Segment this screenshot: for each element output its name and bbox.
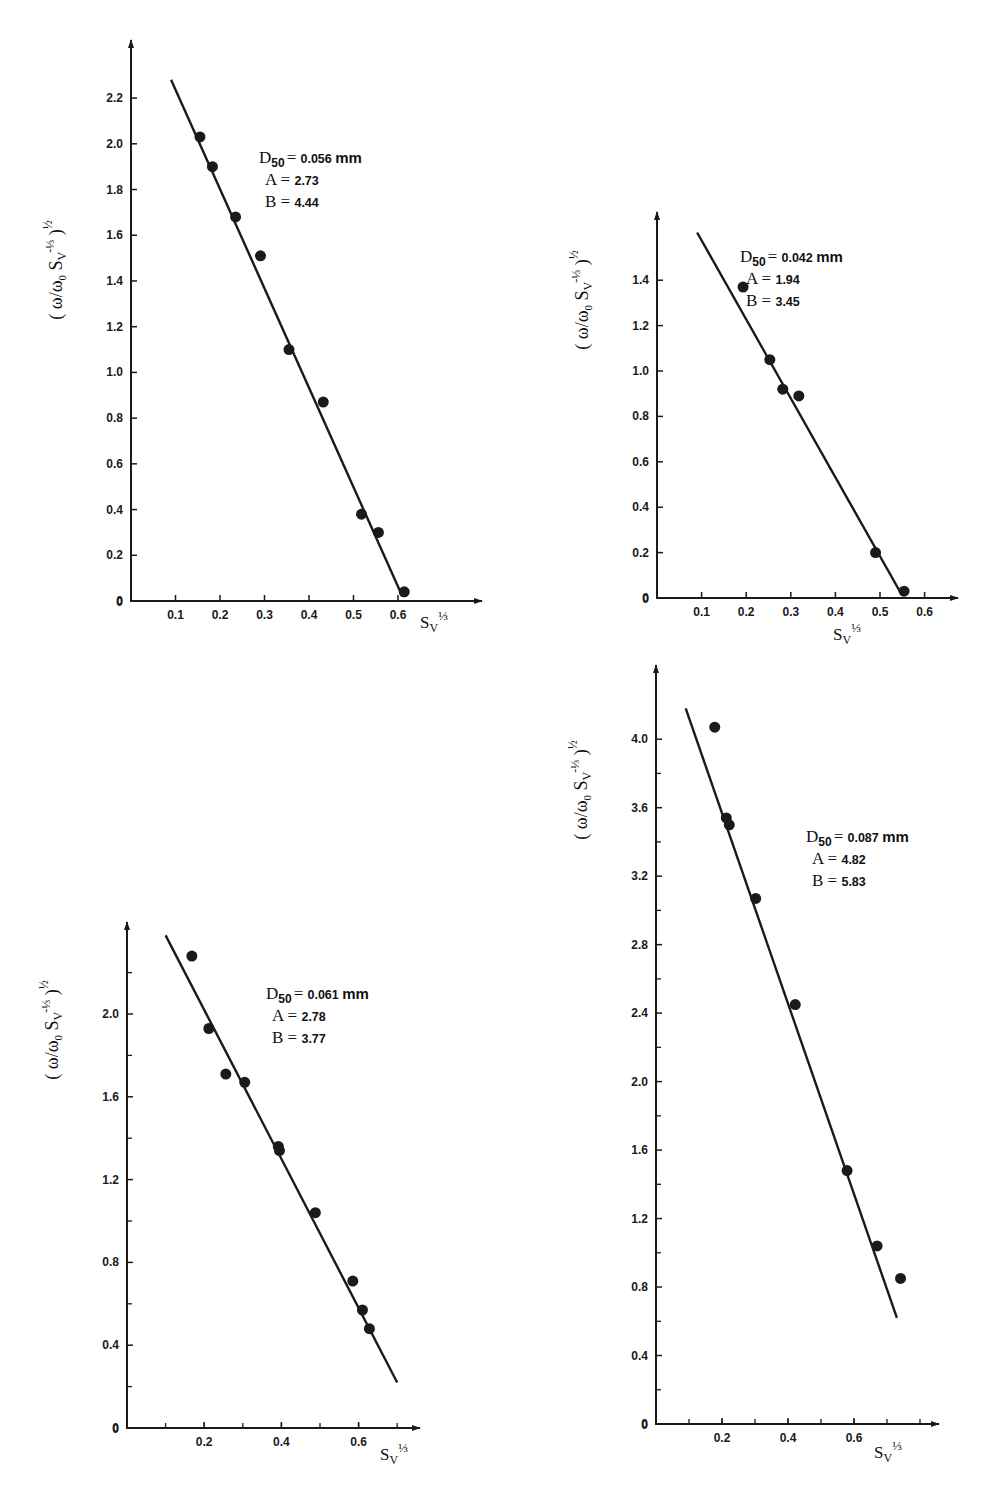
y-tick-label: 1.2: [106, 320, 123, 334]
y-tick-label: 2.0: [631, 1075, 648, 1089]
figure-canvas: 00.20.40.60.81.01.21.41.61.82.02.20.10.2…: [0, 0, 991, 1494]
b-value: B = 3.77: [272, 1028, 326, 1047]
data-point: [364, 1323, 375, 1334]
x-axis-label: SV⅓: [874, 1438, 902, 1465]
d50-label: D50= 0.056 mm: [259, 148, 362, 170]
d50-label: D50= 0.042 mm: [740, 247, 843, 269]
y-tick-label: 2.2: [106, 91, 123, 105]
x-tick-label: 0.4: [273, 1435, 290, 1449]
data-point: [194, 131, 205, 142]
y-tick-label: 1.2: [632, 319, 649, 333]
b-value: B = 4.44: [265, 192, 319, 211]
y-tick-label: 2.0: [102, 1007, 119, 1021]
x-axis-label: SV⅓: [833, 620, 861, 647]
y-tick-label: 0.4: [631, 1349, 648, 1363]
data-point: [764, 354, 775, 365]
data-point: [186, 951, 197, 962]
data-point: [895, 1273, 906, 1284]
x-tick-label: 0.6: [916, 605, 933, 619]
x-tick-label: 0.3: [782, 605, 799, 619]
x-tick-label: 0.2: [196, 1435, 213, 1449]
y-tick-label: 1.6: [102, 1090, 119, 1104]
y-tick-label: 0.8: [106, 411, 123, 425]
y-tick-label: 3.2: [631, 869, 648, 883]
y-tick-label: 2.8: [631, 938, 648, 952]
b-value: B = 5.83: [812, 871, 866, 890]
y-axis-label: ( ω/ω0 SV-⅓ )½: [41, 220, 69, 319]
y-tick-label: 2.0: [106, 137, 123, 151]
y-tick-label: 0.2: [632, 546, 649, 560]
origin-label: 0: [116, 595, 123, 609]
y-tick-label: 0.8: [102, 1255, 119, 1269]
y-tick-label: 1.6: [106, 228, 123, 242]
y-tick-label: 1.0: [106, 365, 123, 379]
b-value: B = 3.45: [746, 291, 800, 310]
data-point: [318, 397, 329, 408]
data-point: [872, 1240, 883, 1251]
svg-text:( ω/ω0 SV-⅓ )½: ( ω/ω0 SV-⅓ )½: [567, 250, 595, 349]
y-tick-label: 0.4: [106, 503, 123, 517]
x-tick-label: 0.2: [738, 605, 755, 619]
y-tick-label: 0.6: [632, 455, 649, 469]
data-point: [220, 1069, 231, 1080]
data-point: [842, 1165, 853, 1176]
svg-text:( ω/ω0 SV-⅓ )½: ( ω/ω0 SV-⅓ )½: [41, 220, 69, 319]
y-tick-label: 0.8: [632, 409, 649, 423]
x-tick-label: 0.4: [827, 605, 844, 619]
data-point: [230, 211, 241, 222]
parameter-annotation: D50= 0.056 mmA = 2.73B = 4.44: [259, 148, 362, 211]
x-tick-label: 0.3: [256, 608, 273, 622]
y-axis-label: ( ω/ω0 SV-⅓ )½: [566, 740, 594, 839]
x-tick-label: 0.4: [301, 608, 318, 622]
y-tick-label: 1.0: [632, 364, 649, 378]
y-tick-label: 1.4: [632, 273, 649, 287]
origin-label: 0: [641, 1418, 648, 1432]
y-tick-label: 1.6: [631, 1143, 648, 1157]
d50-label: D50= 0.061 mm: [266, 984, 369, 1006]
d50-label: D50= 0.087 mm: [806, 827, 909, 849]
data-point: [357, 1305, 368, 1316]
data-point: [870, 547, 881, 558]
data-point: [239, 1077, 250, 1088]
chart-panel-top-left: 00.20.40.60.81.01.21.41.61.82.02.20.10.2…: [41, 40, 482, 635]
y-tick-label: 4.0: [631, 732, 648, 746]
data-point: [274, 1145, 285, 1156]
fit-line: [686, 708, 897, 1317]
y-axis-label: ( ω/ω0 SV-⅓ )½: [567, 250, 595, 349]
a-value: A = 1.94: [746, 269, 800, 288]
data-point: [790, 999, 801, 1010]
x-tick-label: 0.2: [714, 1431, 731, 1445]
origin-label: 0: [112, 1422, 119, 1436]
data-point: [356, 509, 367, 520]
parameter-annotation: D50= 0.061 mmA = 2.78B = 3.77: [266, 984, 369, 1047]
a-value: A = 2.78: [272, 1006, 326, 1025]
y-tick-label: 0.2: [106, 548, 123, 562]
y-tick-label: 1.2: [631, 1212, 648, 1226]
data-point: [373, 527, 384, 538]
x-tick-label: 0.1: [167, 608, 184, 622]
fit-line: [697, 233, 902, 596]
x-tick-label: 0.6: [390, 608, 407, 622]
data-point: [793, 390, 804, 401]
data-point: [709, 722, 720, 733]
y-tick-label: 0.8: [631, 1280, 648, 1294]
a-value: A = 2.73: [265, 170, 319, 189]
y-tick-label: 0.4: [632, 500, 649, 514]
x-tick-label: 0.1: [693, 605, 710, 619]
chart-panel-bottom-right: 00.40.81.21.62.02.42.83.23.64.00.20.40.6…: [566, 665, 939, 1465]
svg-text:( ω/ω0 SV-⅓ )½: ( ω/ω0 SV-⅓ )½: [37, 980, 65, 1079]
y-tick-label: 1.8: [106, 183, 123, 197]
parameter-annotation: D50= 0.042 mmA = 1.94B = 3.45: [740, 247, 843, 310]
y-tick-label: 1.2: [102, 1173, 119, 1187]
x-axis-label: SV⅓: [420, 608, 448, 635]
data-point: [724, 819, 735, 830]
data-point: [203, 1023, 214, 1034]
origin-label: 0: [642, 592, 649, 606]
y-tick-label: 3.6: [631, 801, 648, 815]
y-axis-label: ( ω/ω0 SV-⅓ )½: [37, 980, 65, 1079]
x-tick-label: 0.5: [872, 605, 889, 619]
x-tick-label: 0.6: [846, 1431, 863, 1445]
parameter-annotation: D50= 0.087 mmA = 4.82B = 5.83: [806, 827, 909, 890]
x-tick-label: 0.4: [780, 1431, 797, 1445]
data-point: [347, 1276, 358, 1287]
